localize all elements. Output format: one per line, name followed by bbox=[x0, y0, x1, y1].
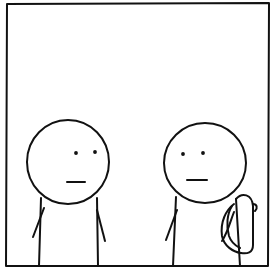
right-figure-eye bbox=[182, 153, 184, 155]
right-figure bbox=[164, 123, 257, 266]
left-figure-head bbox=[27, 120, 109, 204]
left-figure-arm-left bbox=[33, 208, 44, 237]
left-figure-body-left bbox=[39, 198, 41, 266]
right-figure-eye bbox=[202, 152, 204, 154]
comic-panel bbox=[0, 0, 277, 268]
right-figure-head bbox=[164, 123, 246, 203]
left-figure-eye bbox=[94, 151, 96, 153]
comic-drawing bbox=[0, 0, 277, 268]
right-figure-body-left bbox=[173, 197, 176, 266]
left-figure-body-right bbox=[97, 198, 98, 266]
right-figure-body-right bbox=[236, 199, 240, 266]
left-figure-eye bbox=[75, 152, 77, 154]
left-figure bbox=[27, 120, 109, 266]
